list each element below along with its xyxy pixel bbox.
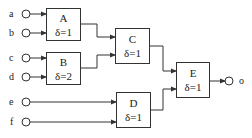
input-label-b: b (9, 28, 14, 38)
input-label-f: f (10, 117, 13, 127)
input-label-d: d (9, 72, 14, 82)
node-a: A δ=1 (46, 8, 81, 41)
input-port-d (22, 73, 30, 81)
node-d-delay: δ=1 (125, 110, 142, 124)
input-label-e: e (9, 97, 13, 107)
input-label-a: a (9, 9, 13, 19)
node-c-delay: δ=1 (124, 46, 141, 60)
input-port-e (22, 98, 30, 106)
input-label-c: c (9, 53, 13, 63)
node-b-name: B (60, 55, 67, 69)
node-b-delay: δ=2 (55, 69, 72, 83)
node-c: C δ=1 (115, 28, 150, 64)
output-port-o (225, 77, 233, 85)
node-a-name: A (60, 11, 68, 25)
node-b: B δ=2 (46, 52, 81, 85)
node-e-name: E (190, 66, 197, 80)
input-port-f (22, 118, 30, 126)
node-e-delay: δ=1 (185, 80, 202, 94)
input-port-a (22, 10, 30, 18)
node-d-name: D (130, 96, 138, 110)
node-a-delay: δ=1 (55, 25, 72, 39)
input-port-c (22, 54, 30, 62)
node-e: E δ=1 (176, 62, 210, 98)
input-port-b (22, 29, 30, 37)
node-c-name: C (129, 32, 136, 46)
node-d: D δ=1 (116, 92, 151, 128)
output-label-o: o (239, 76, 244, 86)
